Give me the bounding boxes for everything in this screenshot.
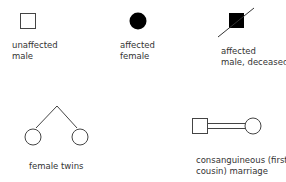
consanguineous-marriage-icon bbox=[193, 118, 262, 134]
unaffected-male-label: unaffected male bbox=[12, 40, 58, 62]
affected-deceased-male-label: affected male, deceased bbox=[221, 46, 286, 68]
label-line: female bbox=[120, 51, 155, 62]
female-twins-label: female twins bbox=[29, 161, 83, 172]
label-line: cousin) marriage bbox=[196, 166, 286, 177]
label-line: affected bbox=[221, 46, 286, 57]
label-line: consanguineous (first bbox=[196, 155, 286, 166]
female-twins-icon bbox=[25, 106, 88, 145]
label-line: female twins bbox=[29, 161, 83, 172]
label-line: male bbox=[12, 51, 58, 62]
affected-female-circle-icon bbox=[130, 13, 147, 30]
label-line: unaffected bbox=[12, 40, 58, 51]
affected-deceased-male-icon bbox=[218, 8, 254, 37]
unaffected-male-square-icon bbox=[21, 14, 36, 29]
affected-female-label: affected female bbox=[120, 40, 155, 62]
consanguineous-marriage-label: consanguineous (first cousin) marriage bbox=[196, 155, 286, 177]
label-line: male, deceased bbox=[221, 57, 286, 68]
label-line: affected bbox=[120, 40, 155, 51]
